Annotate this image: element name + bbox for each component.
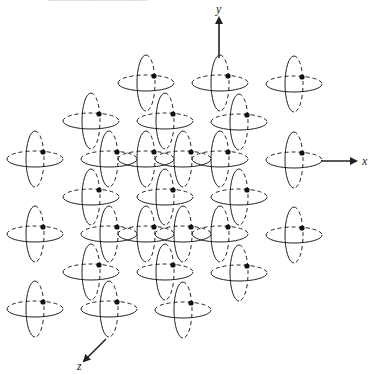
y-axis-label: y [215, 2, 222, 16]
atom [63, 169, 119, 225]
nucleus-dot [40, 149, 45, 154]
atom [192, 55, 248, 111]
nucleus-dot [225, 149, 230, 154]
nucleus-dot [244, 187, 249, 192]
nucleus-dot [114, 149, 119, 154]
atom [211, 169, 267, 225]
z-axis-label: z [76, 359, 82, 373]
nucleus-dot [40, 224, 45, 229]
nucleus-dot [114, 224, 119, 229]
atom [7, 281, 63, 337]
atom [137, 93, 193, 149]
atom [137, 244, 193, 300]
atom [7, 131, 63, 187]
nucleus-dot [170, 187, 175, 192]
atom [118, 206, 174, 262]
nucleus-dot [114, 299, 119, 304]
atom [266, 207, 322, 263]
nucleus-dot [151, 149, 156, 154]
atom [7, 206, 63, 262]
lattice-diagram: x y z [0, 0, 371, 374]
nucleus-dot [96, 187, 101, 192]
nucleus-dot [225, 224, 230, 229]
nucleus-dot [151, 224, 156, 229]
nucleus-dot [188, 300, 193, 305]
atom [155, 282, 211, 338]
atom [81, 206, 137, 262]
atoms-layer [7, 55, 322, 338]
nucleus-dot [244, 263, 249, 268]
nucleus-dot [188, 149, 193, 154]
nucleus-dot [244, 112, 249, 117]
nucleus-dot [170, 111, 175, 116]
atom [192, 206, 248, 262]
x-axis-label: x [361, 154, 368, 168]
nucleus-dot [299, 150, 304, 155]
nucleus-dot [170, 262, 175, 267]
z-axis-arrow [84, 339, 106, 361]
atom [155, 206, 211, 262]
atom [155, 131, 211, 187]
atom [211, 94, 267, 150]
nucleus-dot [299, 74, 304, 79]
nucleus-dot [225, 73, 230, 78]
nucleus-dot [96, 262, 101, 267]
atom [81, 281, 137, 337]
atom [63, 93, 119, 149]
nucleus-dot [299, 225, 304, 230]
atom [81, 131, 137, 187]
atom [118, 131, 174, 187]
nucleus-dot [188, 224, 193, 229]
nucleus-dot [40, 299, 45, 304]
atom [211, 245, 267, 301]
axes-layer: x y z [76, 2, 368, 373]
nucleus-dot [96, 111, 101, 116]
atom [192, 131, 248, 187]
atom [63, 244, 119, 300]
nucleus-dot [151, 73, 156, 78]
atom [137, 169, 193, 225]
atom [266, 132, 322, 188]
atom [266, 56, 322, 112]
atom [118, 55, 174, 111]
